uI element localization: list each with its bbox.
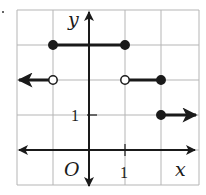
axes	[19, 12, 195, 186]
origin-label: O	[64, 158, 80, 180]
x-tick-label-1: 1	[120, 164, 128, 181]
x-axis-label: x	[175, 158, 186, 180]
y-axis-label: y	[67, 8, 79, 30]
open-endpoint	[121, 76, 129, 84]
closed-endpoint	[49, 41, 57, 49]
closed-endpoint	[121, 41, 129, 49]
y-tick-label-1: 1	[71, 107, 79, 124]
closed-endpoint	[157, 111, 165, 119]
closed-endpoint	[157, 76, 165, 84]
step-function-graph: y x O 1 1	[0, 0, 206, 195]
bullet-mark	[2, 11, 4, 13]
open-endpoint	[49, 76, 57, 84]
grid	[17, 10, 199, 185]
